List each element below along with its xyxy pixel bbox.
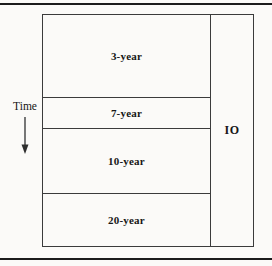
- time-label: Time: [13, 100, 37, 113]
- tranche-stack: 3-year 7-year 10-year 20-year: [43, 15, 211, 246]
- bottom-rule: [0, 258, 272, 260]
- io-column: IO: [211, 15, 253, 246]
- tranche-label-10-year: 10-year: [108, 155, 145, 167]
- tranche-label-3-year: 3-year: [111, 50, 142, 62]
- top-rule: [0, 3, 272, 5]
- tranche-label-7-year: 7-year: [111, 107, 142, 119]
- time-arrow-down-icon: [18, 115, 32, 155]
- time-annotation: Time: [8, 100, 42, 155]
- cmo-structure-diagram: 3-year 7-year 10-year 20-year IO: [42, 14, 254, 247]
- tranche-band-10-year: 10-year: [43, 129, 210, 194]
- tranche-band-20-year: 20-year: [43, 194, 210, 246]
- tranche-label-20-year: 20-year: [108, 214, 145, 226]
- io-label: IO: [224, 123, 239, 138]
- tranche-band-7-year: 7-year: [43, 98, 210, 129]
- tranche-band-3-year: 3-year: [43, 15, 210, 98]
